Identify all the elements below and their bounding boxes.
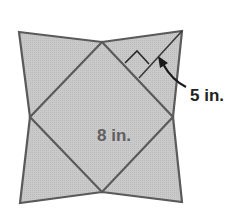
base-side-label: 8 in. (97, 126, 131, 146)
diagram-canvas: 5 in. 8 in. (0, 0, 235, 214)
slant-height-label: 5 in. (190, 86, 224, 106)
diagram-figure (0, 0, 235, 214)
